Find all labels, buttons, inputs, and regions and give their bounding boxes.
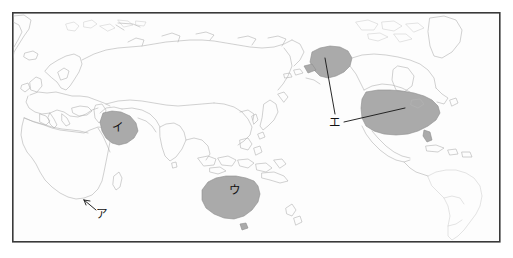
label-u-australia: ウ [229, 183, 240, 197]
map-border-frame [13, 13, 500, 242]
label-a-south-africa: ア [96, 207, 107, 221]
world-map-canvas: ア イ ウ エ [0, 0, 513, 258]
label-i-saudi-arabia: イ [112, 120, 123, 134]
world-map-figure: ア イ ウ エ [0, 0, 513, 258]
label-e-united-states: エ [329, 115, 340, 129]
